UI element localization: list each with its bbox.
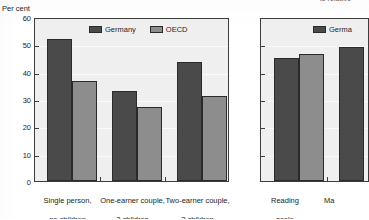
- bar-germany-mathematics: [339, 47, 364, 181]
- bar-oecd-single-person: [72, 81, 97, 181]
- bar-germany-single-person: [47, 39, 72, 181]
- x-category-line-2: 2 children: [160, 215, 235, 220]
- x-category-line-2: 2 children: [95, 215, 170, 220]
- y-tick-mark-10: [35, 156, 39, 157]
- plot-area-panel-2: Germa: [260, 18, 369, 182]
- x-category-line-2: scale: [259, 215, 311, 220]
- x-category-line-1: Single person,: [30, 196, 105, 206]
- x-tick-mark-2: [165, 177, 166, 181]
- bar-germany-two-earner-couple: [177, 62, 202, 181]
- y-tick-label-30: 30: [23, 96, 31, 105]
- x-category-label-reading-scale: Reading scale: [259, 186, 311, 219]
- y-tick-mark-20: [261, 128, 265, 129]
- y-tick-mark-20: [35, 128, 39, 129]
- bar-oecd-two-earner-couple: [202, 96, 227, 181]
- y-tick-label-20: 20: [23, 123, 31, 132]
- y-tick-mark-30: [261, 101, 265, 102]
- legend-panel-2: Germa: [313, 25, 352, 34]
- legend-label-germany: Germa: [329, 25, 352, 34]
- y-tick-label-50: 50: [23, 41, 31, 50]
- y-axis-unit-label: Per cent: [2, 4, 30, 13]
- x-tick-mark-1: [100, 177, 101, 181]
- y-tick-mark-10: [261, 156, 265, 157]
- chart-panel-pisa-scores: Germa Reading scale Ma: [246, 0, 369, 219]
- plot-area-panel-1: Germany OECD: [34, 18, 229, 182]
- x-category-label-two-earner-couple: Two-earner couple, 2 children: [160, 186, 235, 219]
- x-category-line-1: Ma: [324, 196, 366, 206]
- y-tick-label-10: 10: [23, 150, 31, 159]
- y-tick-mark-40: [35, 74, 39, 75]
- legend-label-oecd: OECD: [166, 25, 188, 34]
- x-category-line-1: One-earner couple,: [95, 196, 170, 206]
- y-axis-panel-1: 60 50 40 30 20 10 0: [0, 18, 31, 182]
- legend-swatch-oecd-icon: [150, 26, 163, 33]
- legend-swatch-germany-icon: [313, 26, 326, 33]
- x-category-label-mathematics: Ma: [324, 186, 366, 215]
- chart-panel-tax-wedge: Per cent 60 50 40 30 20 10 0: [0, 0, 232, 219]
- x-category-label-one-earner-couple: One-earner couple, 2 children: [95, 186, 170, 219]
- x-category-line-2: no children: [30, 215, 105, 220]
- x-category-label-single-person: Single person, no children: [30, 186, 105, 219]
- bar-oecd-reading-scale: [299, 54, 324, 181]
- x-tick-mark-1: [327, 177, 328, 181]
- bar-oecd-one-earner-couple: [137, 107, 162, 181]
- y-tick-mark-30: [35, 101, 39, 102]
- x-category-line-1: Reading: [259, 196, 311, 206]
- bar-germany-reading-scale: [274, 58, 299, 181]
- legend-item-germany[interactable]: Germany: [89, 25, 136, 34]
- y-tick-mark-50: [35, 46, 39, 47]
- y-tick-label-40: 40: [23, 68, 31, 77]
- x-category-line-1: Two-earner couple,: [160, 196, 235, 206]
- legend-swatch-germany-icon: [89, 26, 102, 33]
- y-tick-mark-40: [261, 74, 265, 75]
- y-tick-label-60: 60: [23, 14, 31, 23]
- legend-panel-1: Germany OECD: [89, 25, 188, 34]
- legend-label-germany: Germany: [105, 25, 136, 34]
- y-tick-mark-50: [261, 46, 265, 47]
- legend-item-germany[interactable]: Germa: [313, 25, 352, 34]
- bar-germany-one-earner-couple: [112, 91, 137, 181]
- legend-item-oecd[interactable]: OECD: [150, 25, 188, 34]
